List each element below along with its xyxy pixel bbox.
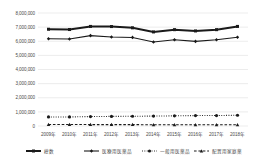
x-axis-tick-label: 2013年 [125, 131, 140, 138]
data-point-marker [194, 114, 197, 117]
data-point-marker [194, 29, 197, 32]
y-axis-tick-label: 7,000,000 [15, 25, 35, 30]
y-axis-tick-label: 2,000,000 [15, 95, 35, 100]
x-axis-tick-label: 2016年 [188, 131, 203, 138]
data-point-marker [110, 25, 113, 28]
legend-label: 一般用医薬品 [160, 148, 190, 155]
legend-item[interactable]: 総数 [26, 148, 54, 155]
data-point-marker [173, 38, 176, 42]
y-axis-tick-label: 6,000,000 [15, 39, 35, 44]
data-point-marker [236, 35, 239, 39]
legend-label: 総数 [44, 148, 54, 155]
data-point-marker [215, 38, 218, 42]
chart-canvas: 8,000,0007,000,0006,000,0005,000,0004,00… [0, 0, 254, 158]
data-point-marker [152, 115, 155, 118]
line-chart: 8,000,0007,000,0006,000,0005,000,0004,00… [0, 0, 254, 158]
data-point-marker [215, 114, 218, 117]
y-axis-tick-label: 3,000,000 [15, 81, 35, 86]
y-axis-tick-label: 1,000,000 [15, 110, 35, 115]
data-point-marker [152, 40, 155, 44]
data-point-marker [131, 26, 134, 29]
data-point-marker [90, 149, 93, 153]
data-point-marker [173, 28, 176, 31]
data-point-marker [89, 34, 92, 38]
data-point-marker [68, 28, 71, 31]
y-axis-tick-label: 5,000,000 [15, 53, 35, 58]
x-axis-tick-label: 2012年 [104, 131, 119, 138]
legend-label: 医療用医薬品 [102, 148, 132, 155]
data-series [47, 123, 239, 127]
data-point-marker [68, 115, 71, 118]
data-point-marker [236, 114, 239, 117]
data-point-marker [110, 35, 113, 39]
x-axis-tick-label: 2009年 [41, 131, 56, 138]
x-axis-tick-label: 2015年 [167, 131, 182, 138]
data-point-marker [148, 149, 151, 152]
data-point-marker [89, 115, 92, 118]
x-axis-tick-label: 2014年 [146, 131, 161, 138]
data-point-marker [47, 37, 50, 41]
data-point-marker [110, 115, 113, 118]
y-axis-tick-labels: 8,000,0007,000,0006,000,0005,000,0004,00… [15, 11, 35, 129]
data-point-marker [47, 115, 50, 118]
data-point-marker [131, 115, 134, 118]
data-series-group [47, 25, 239, 126]
chart-legend: 総数医療用医薬品一般用医薬品配置用家庭薬 [26, 148, 242, 155]
y-axis-tick-label: 4,000,000 [15, 67, 35, 72]
legend-item[interactable]: 配置用家庭薬 [194, 148, 242, 155]
data-point-marker [68, 37, 71, 41]
data-point-marker [152, 30, 155, 33]
legend-item[interactable]: 一般用医薬品 [142, 148, 190, 155]
series-line [49, 115, 238, 117]
data-point-marker [173, 114, 176, 117]
data-point-marker [131, 36, 134, 40]
data-point-marker [236, 123, 239, 126]
x-axis-tick-label: 2018年 [230, 131, 245, 138]
legend-label: 配置用家庭薬 [212, 148, 242, 155]
data-point-marker [47, 28, 50, 31]
data-point-marker [236, 25, 239, 28]
data-series [47, 25, 239, 34]
x-axis-tick-label: 2011年 [83, 131, 98, 138]
y-axis-tick-label: 8,000,000 [15, 11, 35, 16]
x-axis-tick-labels: 2009年2010年2011年2012年2013年2014年2015年2016年… [41, 131, 245, 138]
data-point-marker [215, 28, 218, 31]
data-point-marker [89, 25, 92, 28]
legend-item[interactable]: 医療用医薬品 [84, 148, 132, 155]
data-point-marker [194, 40, 197, 44]
data-series [47, 114, 239, 119]
x-axis-tick-label: 2010年 [62, 131, 77, 138]
x-axis-tick-label: 2017年 [209, 131, 224, 138]
data-series [47, 34, 239, 44]
data-point-marker [32, 150, 35, 153]
y-axis-tick-label: 0 [33, 124, 36, 129]
